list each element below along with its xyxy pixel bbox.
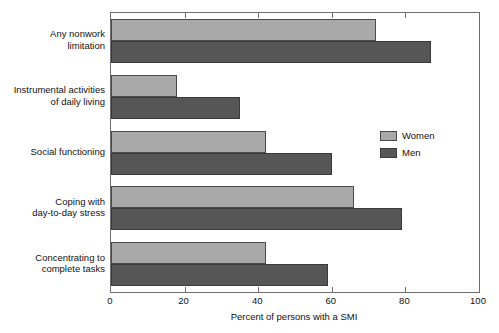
bar-men-group-4	[111, 264, 328, 286]
bar-women-group-0	[111, 19, 376, 41]
x-tick-label-0: 0	[107, 295, 112, 306]
x-tick-label-80: 80	[399, 295, 410, 306]
legend-label-women: Women	[402, 130, 435, 141]
legend-item-women: Women	[380, 128, 435, 143]
x-tick-top-40	[258, 13, 259, 18]
category-label-0: Any nonwork limitation	[1, 28, 105, 51]
bar-men-group-2	[111, 153, 332, 175]
category-label-3: Coping with day-to-day stress	[1, 196, 105, 219]
bar-men-group-1	[111, 97, 240, 119]
category-label-4: Concentrating to complete tasks	[1, 252, 105, 275]
x-tick-top-80	[405, 13, 406, 18]
x-tick-label-100: 100	[470, 295, 486, 306]
x-tick-bottom-60	[332, 287, 333, 292]
bar-men-group-3	[111, 208, 402, 230]
x-axis-title: Percent of persons with a SMI	[110, 311, 478, 322]
x-tick-bottom-20	[185, 287, 186, 292]
category-label-1: Instrumental activities of daily living	[1, 84, 105, 107]
bar-women-group-1	[111, 75, 177, 97]
bar-chart: Any nonwork limitationInstrumental activ…	[0, 0, 499, 333]
category-axis-labels: Any nonwork limitationInstrumental activ…	[0, 12, 105, 291]
x-tick-bottom-80	[405, 287, 406, 292]
bar-women-group-3	[111, 186, 354, 208]
x-tick-top-60	[332, 13, 333, 18]
x-tick-label-60: 60	[326, 295, 337, 306]
bar-women-group-2	[111, 131, 266, 153]
legend-item-men: Men	[380, 145, 435, 160]
x-tick-label-40: 40	[252, 295, 263, 306]
chart-legend: Women Men	[380, 128, 435, 162]
category-label-2: Social functioning	[1, 146, 105, 158]
bar-women-group-4	[111, 242, 266, 264]
legend-label-men: Men	[402, 147, 420, 158]
bar-men-group-0	[111, 41, 431, 63]
x-tick-bottom-40	[258, 287, 259, 292]
x-tick-top-20	[185, 13, 186, 18]
legend-swatch-women-icon	[380, 131, 397, 141]
legend-swatch-men-icon	[380, 148, 397, 158]
x-tick-label-20: 20	[178, 295, 189, 306]
